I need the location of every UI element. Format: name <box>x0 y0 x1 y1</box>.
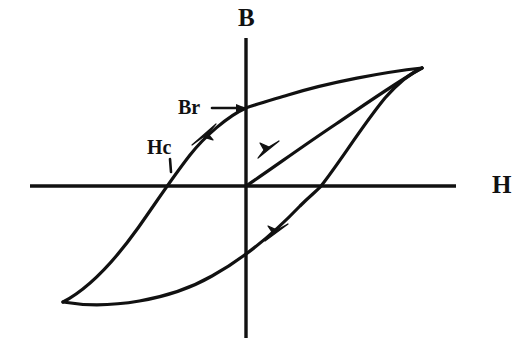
hysteresis-loop-figure <box>0 0 530 342</box>
hc-leader-tick-icon <box>170 159 171 172</box>
hysteresis-diagram-page: B H Br Hc <box>0 0 530 342</box>
h-axis-label: H <box>492 172 511 197</box>
remanence-label: Br <box>178 97 200 117</box>
arrowhead-initial-curve-icon <box>258 141 279 158</box>
coercivity-label: Hc <box>147 137 171 157</box>
arrowhead-lower-branch-icon <box>265 224 288 241</box>
arrowhead-upper-branch-icon <box>192 124 216 145</box>
b-axis-label: B <box>238 5 255 30</box>
